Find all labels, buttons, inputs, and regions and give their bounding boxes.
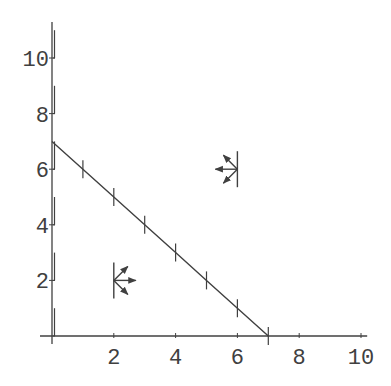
axes [40,22,367,344]
y-tick-label: 6 [36,159,49,184]
arrow-icon [223,169,237,183]
arrow-icon [114,266,128,280]
arrow-icon [223,155,237,169]
boundary-line [52,141,268,345]
tick-labels: 246810246810 [23,48,375,371]
axis-ticks [49,58,361,338]
chart-plot: 246810246810 [0,0,391,386]
y-tick-label: 4 [36,215,49,240]
x-tick-label: 4 [169,346,182,371]
direction-glyphs [114,151,238,298]
y-tick-label: 10 [23,48,49,73]
direction-glyph-right [114,262,136,298]
x-tick-label: 8 [293,346,306,371]
y-axis-segments [53,30,55,336]
y-tick-label: 2 [36,270,49,295]
x-tick-label: 6 [231,346,244,371]
x-tick-label: 10 [348,346,374,371]
arrow-icon [114,280,128,294]
direction-glyph-left [215,151,237,187]
y-tick-label: 8 [36,104,49,129]
x-tick-label: 2 [107,346,120,371]
